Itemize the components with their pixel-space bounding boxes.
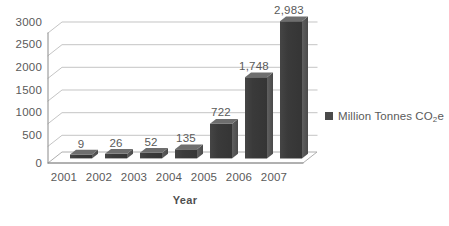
x-axis-tick-labels: 2001 2002 2003 2004 2005 2006 2007	[0, 172, 449, 190]
y-tick-500: 500	[2, 130, 42, 142]
x-tick-2001: 2001	[44, 172, 84, 184]
legend-swatch-icon	[325, 112, 333, 120]
data-label-2005: 722	[198, 107, 244, 119]
legend-label-suffix: e	[437, 110, 444, 122]
bar-2006	[245, 73, 273, 159]
y-axis-tick-labels: 3000 2500 2000 1500 1000 500 0	[2, 0, 42, 226]
gridlines	[48, 22, 317, 146]
bar-2003	[140, 148, 168, 158]
x-tick-2003: 2003	[114, 172, 154, 184]
y-tick-3000: 3000	[2, 17, 42, 29]
bar-2004	[175, 145, 203, 159]
data-label-2004: 135	[163, 133, 209, 145]
x-tick-2002: 2002	[79, 172, 119, 184]
data-label-2007: 2,983	[266, 5, 312, 17]
y-tick-1500: 1500	[2, 85, 42, 97]
x-axis-title: Year	[60, 194, 310, 206]
bar-2005	[210, 119, 238, 158]
y-tick-2500: 2500	[2, 39, 42, 51]
bar-chart: 3000 2500 2000 1500 1000 500 0 9 26 52 1…	[0, 0, 449, 226]
legend-label-subscript: 2	[433, 115, 438, 124]
legend-label-prefix: Million Tonnes CO	[338, 110, 433, 122]
y-tick-0: 0	[2, 158, 42, 170]
y-tick-1000: 1000	[2, 107, 42, 119]
bar-2007	[280, 17, 308, 159]
legend-label: Million Tonnes CO2e	[338, 110, 444, 122]
x-tick-2004: 2004	[149, 172, 189, 184]
chart-legend: Million Tonnes CO2e	[325, 110, 444, 122]
y-tick-2000: 2000	[2, 62, 42, 74]
x-tick-2006: 2006	[219, 172, 259, 184]
x-tick-2005: 2005	[184, 172, 224, 184]
x-tick-2007: 2007	[254, 172, 294, 184]
data-label-2006: 1,748	[231, 61, 277, 73]
